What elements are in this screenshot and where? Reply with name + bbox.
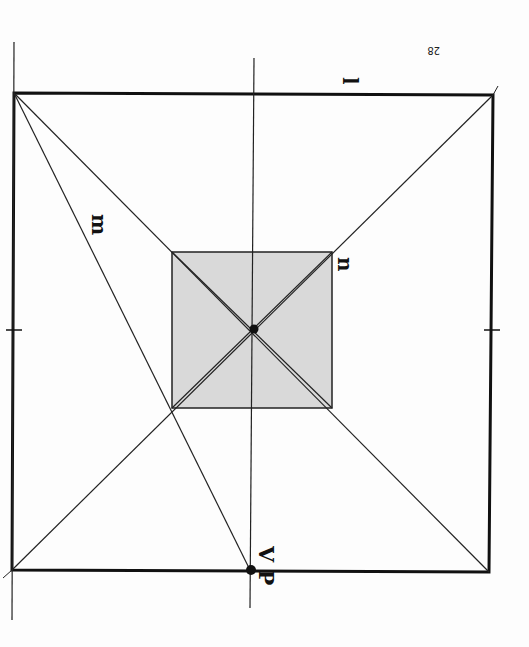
corner-stub-bl bbox=[3, 570, 12, 578]
center-point bbox=[250, 325, 259, 334]
label-vp: V P bbox=[254, 545, 279, 586]
corner-stub-tr bbox=[493, 86, 498, 95]
perspective-diagram: 28 l m n V P bbox=[0, 0, 529, 647]
label-l: l bbox=[338, 77, 362, 85]
label-n: n bbox=[333, 257, 357, 272]
page-number: 28 bbox=[427, 45, 440, 56]
label-m: m bbox=[87, 214, 111, 235]
